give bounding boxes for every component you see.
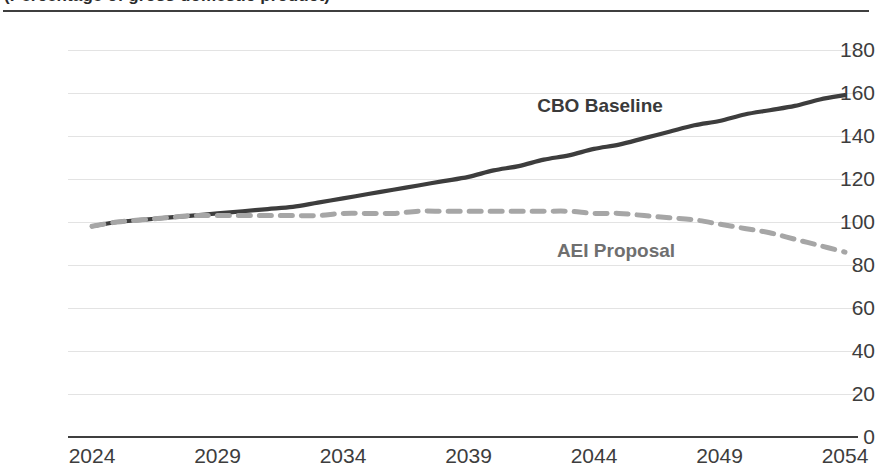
line-cbo-baseline [92,95,845,226]
series-label-cbo: CBO Baseline [537,95,663,117]
chart-root: (Percentage of gross domestic product) 1… [0,0,875,473]
line-aei-proposal [92,211,845,252]
series-layer [0,0,875,473]
plot-area: 180160140120100806040200 202420292034203… [0,0,875,473]
series-label-aei: AEI Proposal [557,240,675,262]
